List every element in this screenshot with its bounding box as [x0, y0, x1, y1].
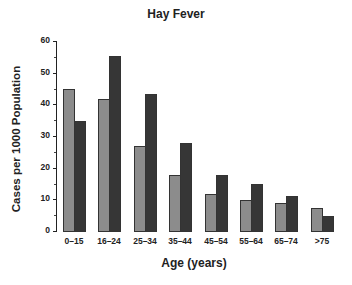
y-tick-label: 50: [26, 67, 50, 77]
bar: [180, 143, 192, 232]
x-tick-label: 45–54: [198, 236, 234, 246]
x-tick-label: 35–44: [162, 236, 198, 246]
y-tick: [53, 136, 56, 137]
y-minor-tick: [54, 89, 56, 90]
y-minor-tick: [54, 184, 56, 185]
y-axis-line: [56, 41, 57, 232]
bar: [74, 121, 86, 232]
y-tick: [53, 41, 56, 42]
y-minor-tick: [54, 215, 56, 216]
x-tick-label: 0–15: [56, 236, 92, 246]
y-tick-label: 20: [26, 162, 50, 172]
bar: [322, 216, 334, 232]
y-tick-label: 60: [26, 35, 50, 45]
y-tick-label: 0: [26, 225, 50, 235]
y-tick: [53, 168, 56, 169]
y-tick-label: 10: [26, 193, 50, 203]
x-tick-label: >75: [304, 236, 340, 246]
y-tick: [53, 73, 56, 74]
x-tick-label: 65–74: [268, 236, 304, 246]
y-minor-tick: [54, 120, 56, 121]
x-tick-label: 16–24: [91, 236, 127, 246]
x-tick-label: 55–64: [233, 236, 269, 246]
y-tick-label: 40: [26, 98, 50, 108]
y-tick-label: 30: [26, 130, 50, 140]
chart-title: Hay Fever: [64, 7, 288, 21]
bar: [251, 184, 263, 232]
x-tick-label: 25–34: [127, 236, 163, 246]
y-minor-tick: [54, 57, 56, 58]
bar: [145, 94, 157, 232]
y-tick: [53, 199, 56, 200]
y-tick: [53, 231, 56, 232]
y-tick: [53, 104, 56, 105]
bar: [216, 175, 228, 232]
y-minor-tick: [54, 152, 56, 153]
y-axis-label: Cases per 1000 Population: [10, 64, 22, 214]
bar: [109, 56, 121, 232]
x-axis-label: Age (years): [56, 256, 332, 270]
bar: [286, 196, 298, 232]
